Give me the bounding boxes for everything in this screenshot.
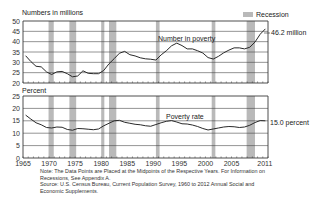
y-tick-label-top: 45 (12, 28, 20, 35)
recession-band (109, 96, 116, 158)
data-point-poverty-rate (98, 128, 99, 129)
data-point-poverty-rate (228, 126, 229, 127)
y-tick-label-top: 20 (12, 80, 20, 87)
data-point-poverty-rate (46, 127, 47, 128)
data-point-poverty-rate (213, 128, 214, 129)
series-line-poverty-rate (26, 115, 266, 130)
chart-notes: Note: The Data Points are Placed at the … (40, 168, 315, 194)
data-point-number-in-poverty (25, 55, 26, 56)
y-tick-label-top: 25 (12, 69, 20, 76)
x-minor-ticks (23, 81, 268, 158)
data-point-number-in-poverty (228, 50, 229, 51)
y-tick-label-bottom: 5 (16, 142, 20, 149)
data-point-poverty-rate (82, 128, 83, 129)
note-line-3: Source: U.S. Census Bureau, Current Popu… (40, 181, 315, 188)
y-tick-label-bottom: 25 (12, 93, 20, 100)
data-point-poverty-rate (218, 127, 219, 128)
data-point-poverty-rate (181, 123, 182, 124)
data-point-poverty-rate (88, 129, 89, 130)
y-tick-labels-bottom: 0510152025 (12, 93, 20, 162)
data-point-poverty-rate (155, 124, 156, 125)
data-point-number-in-poverty (166, 50, 167, 51)
data-point-number-in-poverty (67, 73, 68, 74)
legend-swatch-recession (243, 12, 253, 17)
data-point-poverty-rate (61, 127, 62, 128)
x-tick-label: 1990 (146, 160, 162, 167)
y-tick-label-top: 50 (12, 18, 20, 25)
note-line-2: Recessions, See Appendix A. (40, 175, 315, 182)
data-point-poverty-rate (67, 129, 68, 130)
legend-label-recession: Recession (256, 11, 289, 18)
recession-band (156, 96, 160, 158)
series-label-poverty-rate: Poverty rate (166, 113, 204, 121)
y-tick-label-bottom: 15 (12, 117, 20, 124)
data-point-number-in-poverty (187, 48, 188, 49)
data-point-number-in-poverty (244, 48, 245, 49)
data-point-number-in-poverty (103, 70, 104, 71)
data-point-poverty-rate (30, 118, 31, 119)
data-point-number-in-poverty (192, 48, 193, 49)
x-tick-label: 1995 (172, 160, 188, 167)
data-point-number-in-poverty (181, 45, 182, 46)
series-label-number-in-poverty: Number in poverty (158, 35, 216, 43)
data-point-poverty-rate (145, 125, 146, 126)
data-point-number-in-poverty (129, 54, 130, 55)
data-point-number-in-poverty (41, 66, 42, 67)
data-point-number-in-poverty (218, 56, 219, 57)
x-tick-label: 1985 (119, 160, 135, 167)
data-point-poverty-rate (249, 125, 250, 126)
recession-band (247, 96, 255, 158)
data-point-number-in-poverty (35, 66, 36, 67)
data-point-poverty-rate (140, 124, 141, 125)
x-tick-label: 1975 (67, 160, 83, 167)
data-point-number-in-poverty (239, 47, 240, 48)
data-point-poverty-rate (124, 122, 125, 123)
data-point-poverty-rate (265, 120, 266, 121)
recession-band (69, 96, 76, 158)
data-point-number-in-poverty (161, 54, 162, 55)
data-point-number-in-poverty (46, 71, 47, 72)
data-point-number-in-poverty (114, 58, 115, 59)
y-tick-label-top: 35 (12, 49, 20, 56)
data-point-poverty-rate (187, 123, 188, 124)
data-point-number-in-poverty (108, 63, 109, 64)
data-point-poverty-rate (239, 127, 240, 128)
x-tick-label: 1970 (41, 160, 57, 167)
data-point-number-in-poverty (254, 41, 255, 42)
x-tick-label: 1965 (15, 160, 31, 167)
gridlines-top (23, 21, 268, 83)
y-axis-label-bottom: Percent (22, 87, 46, 94)
data-point-number-in-poverty (150, 59, 151, 60)
data-point-poverty-rate (103, 125, 104, 126)
y-tick-labels-top: 20253035404550 (12, 18, 20, 87)
data-point-poverty-rate (234, 126, 235, 127)
data-point-number-in-poverty (82, 70, 83, 71)
data-point-poverty-rate (72, 130, 73, 131)
data-point-poverty-rate (223, 126, 224, 127)
data-point-number-in-poverty (234, 47, 235, 48)
data-point-poverty-rate (114, 120, 115, 121)
y-tick-label-top: 40 (12, 38, 20, 45)
data-point-number-in-poverty (119, 53, 120, 54)
y-axis-label-top: Numbers in millions (22, 9, 84, 16)
data-point-poverty-rate (51, 127, 52, 128)
data-point-number-in-poverty (155, 59, 156, 60)
data-point-number-in-poverty (124, 51, 125, 52)
data-point-number-in-poverty (56, 71, 57, 72)
y-tick-label-bottom: 20 (12, 105, 20, 112)
data-point-number-in-poverty (260, 34, 261, 35)
data-point-poverty-rate (166, 121, 167, 122)
data-point-poverty-rate (176, 121, 177, 122)
data-point-number-in-poverty (223, 52, 224, 53)
data-point-number-in-poverty (98, 73, 99, 74)
data-point-poverty-rate (77, 128, 78, 129)
data-point-poverty-rate (150, 126, 151, 127)
end-label-15-percent: 15.0 percent (270, 119, 309, 127)
recession-band (212, 96, 216, 158)
data-point-number-in-poverty (51, 74, 52, 75)
data-point-poverty-rate (202, 128, 203, 129)
data-point-poverty-rate (41, 124, 42, 125)
data-point-poverty-rate (207, 129, 208, 130)
data-point-number-in-poverty (171, 45, 172, 46)
data-point-number-in-poverty (249, 47, 250, 48)
